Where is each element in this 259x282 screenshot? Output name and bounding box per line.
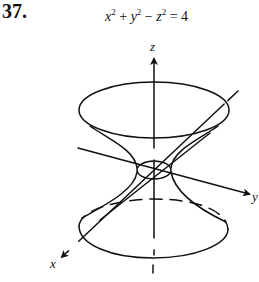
y-axis [78,148,249,194]
x-axis-parallel [100,133,210,220]
z-axis-label: z [150,40,155,53]
lower-right-profile [171,172,226,222]
x-axis-label: x [50,257,56,270]
y-axis-label: y [252,190,258,203]
x-axis [62,91,238,257]
hyperboloid-figure [0,0,259,282]
